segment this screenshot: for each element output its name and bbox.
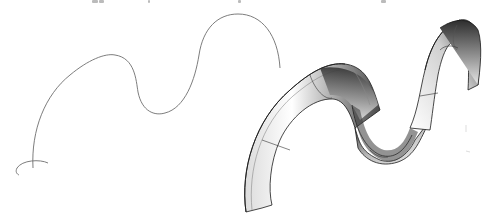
cross-section-circle: [16, 161, 48, 175]
cropped-text-above: [0, 0, 490, 4]
swept-surface: [245, 20, 481, 212]
figure: profile-curve swept-surface: [0, 0, 490, 224]
trajectory-curve: [33, 14, 280, 168]
artifact-marks: [466, 125, 470, 152]
